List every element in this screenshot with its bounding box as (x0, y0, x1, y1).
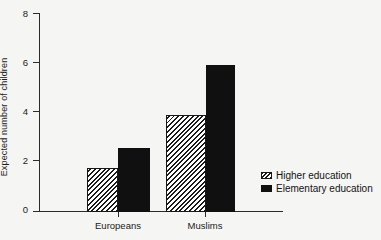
y-tick-label-2: 2 (0, 156, 28, 165)
legend-item-higher-education: Higher education (261, 169, 373, 181)
y-tick-label-6: 6 (0, 58, 28, 67)
x-tick-mark-muslims (205, 212, 206, 217)
bar-europeans-higher-education (87, 168, 118, 212)
legend: Higher education Elementary education (261, 169, 373, 195)
legend-label-higher-education: Higher education (276, 170, 352, 181)
y-tick-label-4: 4 (0, 107, 28, 116)
y-tick-label-8: 8 (0, 9, 28, 18)
x-category-label-europeans: Europeans (95, 220, 141, 231)
x-category-label-muslims: Muslims (188, 220, 223, 231)
legend-swatch-hatched-icon (261, 172, 272, 179)
x-axis-line (39, 211, 283, 212)
bar-europeans-elementary-education (118, 148, 150, 212)
y-axis-line (39, 13, 40, 212)
bar-muslims-higher-education (166, 115, 206, 212)
bar-chart: Expected number of children 8 6 4 2 0 Eu… (0, 0, 381, 240)
x-tick-mark-europeans (118, 212, 119, 217)
legend-item-elementary-education: Elementary education (261, 182, 373, 194)
legend-swatch-solid-icon (261, 185, 272, 192)
bar-muslims-elementary-education (206, 65, 235, 212)
legend-label-elementary-education: Elementary education (276, 183, 373, 194)
y-tick-label-0: 0 (0, 205, 28, 214)
